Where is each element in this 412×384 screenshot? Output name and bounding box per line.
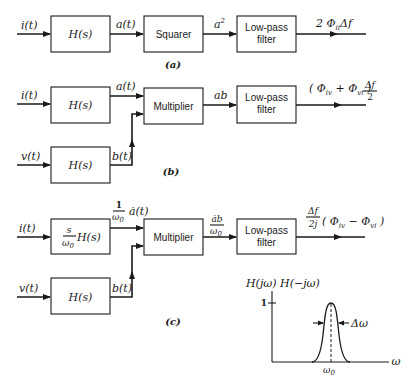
multiplier-b-label: Multiplier (153, 101, 194, 112)
output-arrowhead-b (334, 102, 342, 108)
block-c-top-num: s (67, 225, 72, 235)
filter-block-a-label: H(s) (68, 28, 93, 41)
output-frac-num-b: Δf (364, 80, 376, 90)
lowpass-b-line1: Low-pass (245, 92, 288, 103)
squarer-label: Squarer (156, 29, 192, 40)
caption-c: (c) (165, 316, 181, 327)
center-frequency-label: ω0 (323, 365, 335, 377)
multiplier-c-label: Multiplier (153, 232, 194, 243)
plot-ytick-label: 1 (261, 298, 267, 308)
bandwidth-arrowhead-left (318, 321, 324, 326)
filter-block-b-top-label: H(s) (68, 99, 93, 112)
output-label-c: ( Φiv − Φvi ) (322, 215, 384, 230)
block-diagram-figure: i(t) H(s) a(t) Squarer a2 Low-pass filte… (0, 0, 412, 384)
filter-block-c-bottom-label: H(s) (68, 291, 93, 304)
block-c-top-tail: H(s) (76, 231, 101, 244)
input-label-c2: v(t) (19, 282, 38, 295)
output-c-frac-num: Δf (307, 206, 319, 216)
filter-block-b-bottom-label: H(s) (68, 159, 93, 172)
product-c-num: ȧb (211, 214, 222, 224)
signal-c-top-den: ω0 (112, 212, 124, 224)
output-label-a: 2 ΦiiΔf (315, 17, 354, 32)
output-label-b: ( Φiv + Φvi ) (309, 82, 371, 97)
lowpass-c-line2: filter (257, 237, 277, 248)
caption-a: (a) (165, 59, 181, 70)
signal-label-b-top: a(t) (116, 80, 136, 93)
lowpass-a-line2: filter (257, 34, 277, 45)
output-frac-den-b: 2 (367, 92, 373, 102)
up-arrowhead-b (129, 139, 135, 147)
signal-label-b-bottom: b(t) (112, 150, 132, 163)
input-label-b2: v(t) (21, 150, 40, 163)
bandwidth-label: Δω (350, 317, 368, 330)
plot-ylabel: H(jω) H(−jω) (245, 277, 320, 290)
input-label-a: i(t) (21, 19, 38, 32)
signal-c-top-tail: ȧ(t) (129, 205, 149, 218)
panel-b: i(t) H(s) a(t) v(t) H(s) b(t) Multiplier… (17, 80, 377, 183)
signal-label-a2: a2 (214, 17, 226, 31)
lowpass-a-line1: Low-pass (245, 22, 288, 33)
signal-label-c-bottom: b(t) (112, 282, 132, 295)
plot-xlabel: ω (392, 355, 401, 368)
output-c-frac-den: 2j (308, 219, 318, 229)
lowpass-c-line1: Low-pass (245, 225, 288, 236)
input-label-c1: i(t) (19, 222, 36, 235)
output-arrowhead-c (334, 234, 342, 240)
panel-a: i(t) H(s) a(t) Squarer a2 Low-pass filte… (17, 16, 366, 70)
bandwidth-arrowhead-right (338, 321, 344, 326)
caption-b: (b) (163, 166, 180, 177)
up-arrowhead-c (129, 271, 135, 279)
product-label-b: ab (214, 89, 228, 102)
signal-c-top-num: 1 (116, 200, 122, 210)
panel-c: i(t) s ω0 H(s) 1 ω0 ȧ(t) v(t) H(s) b(t) … (17, 200, 384, 327)
input-label-b1: i(t) (21, 89, 38, 102)
signal-label-a1: a(t) (116, 18, 136, 31)
frequency-response-plot: H(jω) H(−jω) 1 ω Δω ω0 (245, 277, 401, 377)
lowpass-b-line2: filter (257, 104, 277, 115)
